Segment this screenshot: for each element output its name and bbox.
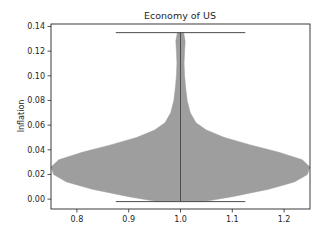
y-tick-label: 0.06: [27, 121, 45, 130]
violin-chart: Economy of US 0.80.91.01.11.2 0.000.020.…: [0, 0, 327, 234]
plot-area: [51, 33, 310, 202]
y-tick-label: 0.12: [27, 47, 45, 56]
x-tick-label: 1.1: [226, 215, 239, 224]
chart-title: Economy of US: [144, 10, 216, 21]
y-tick-label: 0.10: [27, 72, 45, 81]
y-tick-label: 0.02: [27, 170, 45, 179]
x-tick-label: 1.2: [278, 215, 291, 224]
y-tick-label: 0.08: [27, 96, 45, 105]
y-tick-label: 0.00: [27, 195, 45, 204]
x-tick-label: 0.9: [122, 215, 135, 224]
y-tick-label: 0.14: [27, 22, 45, 31]
y-tick-label: 0.04: [27, 146, 45, 155]
y-axis-label: Inflation: [17, 100, 26, 133]
x-tick-label: 0.8: [71, 215, 84, 224]
y-axis: 0.000.020.040.060.080.100.120.14: [27, 22, 51, 204]
x-axis: 0.80.91.01.11.2: [71, 209, 291, 224]
x-tick-label: 1.0: [174, 215, 187, 224]
